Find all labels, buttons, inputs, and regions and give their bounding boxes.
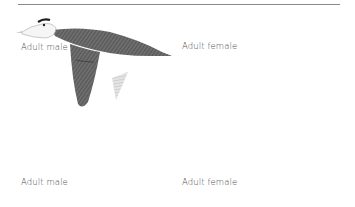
duck-illustrations: [0, 0, 355, 207]
duck-top-left-male: [16, 19, 172, 106]
label-top-right: Adult female: [182, 41, 237, 51]
label-bottom-left: Adult male: [21, 177, 68, 187]
label-top-left: Adult male: [21, 42, 68, 52]
label-bottom-right: Adult female: [182, 177, 237, 187]
